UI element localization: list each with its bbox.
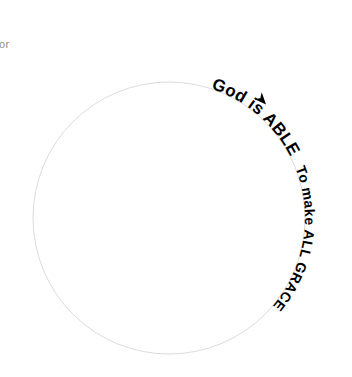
curved-label-to-make-all-grace-text: To make ALL GRACE bbox=[270, 164, 318, 315]
diagram-canvas: or God is ABLE To make ALL GRACE bbox=[0, 0, 352, 377]
curved-label-god-is-able-text: God is ABLE bbox=[210, 74, 304, 159]
curved-label-to-make-all-grace: To make ALL GRACE bbox=[270, 164, 318, 315]
circle-diagram-svg: God is ABLE To make ALL GRACE bbox=[0, 0, 352, 377]
curved-label-god-is-able: God is ABLE bbox=[210, 74, 304, 159]
